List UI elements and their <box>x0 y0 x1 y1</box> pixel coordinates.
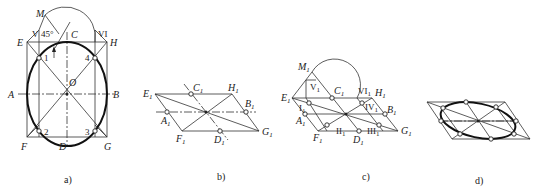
caption-b: b) <box>217 171 225 183</box>
label-M: M <box>35 8 45 19</box>
label-C1: C1 <box>193 82 203 95</box>
label-E1: E1 <box>142 88 153 101</box>
panel-a: M V 45° C VI E H 1 4 O A B 2 3 F D G a) <box>7 7 119 186</box>
caption-d: d) <box>475 175 483 187</box>
label-A1: A1 <box>295 115 306 128</box>
panel-c: M1 V1 C1 VI1 H1 E1 I1 IV1 B1 A1 F1 II1 D… <box>280 59 412 183</box>
label-III1: III1 <box>367 126 380 138</box>
label-2: 2 <box>44 127 49 137</box>
label-M1: M1 <box>297 61 310 74</box>
caption-a: a) <box>64 174 72 186</box>
label-G1: G1 <box>262 126 273 139</box>
label-A1: A1 <box>160 115 171 128</box>
label-II1: II1 <box>336 126 346 138</box>
label-F1: F1 <box>175 133 186 146</box>
label-1: 1 <box>44 53 49 63</box>
label-G1: G1 <box>401 125 412 138</box>
label-E: E <box>16 37 23 48</box>
label-B: B <box>113 89 119 100</box>
label-D1: D1 <box>213 134 225 147</box>
label-V1: V1 <box>310 82 321 94</box>
label-E1: E1 <box>280 92 291 105</box>
label-F1: F1 <box>312 132 323 145</box>
label-G: G <box>104 141 111 152</box>
label-B1: B1 <box>245 98 255 111</box>
label-V: V <box>32 29 39 39</box>
label-D: D <box>58 141 67 152</box>
label-H1: H1 <box>227 82 239 95</box>
label-4: 4 <box>85 53 90 63</box>
label-C1: C1 <box>334 85 344 98</box>
label-B1: B1 <box>387 104 397 117</box>
label-VI1: VI1 <box>358 86 372 98</box>
panel-b: E1 C1 H1 B1 A1 F1 D1 G1 b) <box>142 82 273 183</box>
label-angle: 45° <box>41 29 54 39</box>
label-I1: I1 <box>299 103 306 115</box>
label-H1: H1 <box>374 87 386 100</box>
ellipse-construction-figure: M V 45° C VI E H 1 4 O A B 2 3 F D G a) … <box>0 0 540 195</box>
label-D1: D1 <box>352 134 364 147</box>
label-C: C <box>71 29 78 40</box>
label-VI: VI <box>98 29 108 39</box>
caption-c: c) <box>362 171 370 183</box>
label-A: A <box>7 89 15 100</box>
label-F: F <box>20 141 28 152</box>
label-O: O <box>69 77 76 88</box>
label-3: 3 <box>85 127 90 137</box>
label-H: H <box>109 37 118 48</box>
panel-d: d) <box>427 96 530 187</box>
